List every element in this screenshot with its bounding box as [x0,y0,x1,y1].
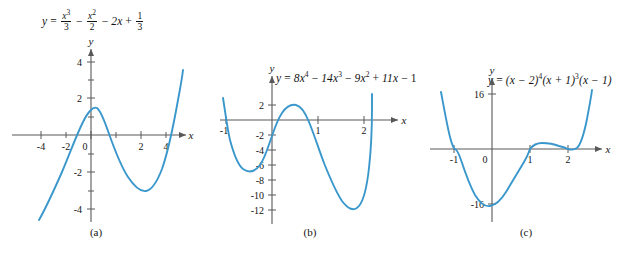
y-axis-label-b: y [269,62,275,74]
x-ticklabel-a-2: 0 [83,141,88,152]
curve-a [39,70,183,220]
y-ticklabel-b-4: -8 [256,175,264,186]
caption-b: (b) [290,226,330,238]
curve-c [441,90,592,206]
x-ticklabel-b-1: 1 [316,125,321,136]
caption-c: (c) [506,226,546,238]
y-ticklabel-b-6: -12 [251,205,264,216]
x-ticklabel-a-3: 2 [139,141,144,152]
x-ticklabel-a-0: -4 [37,141,45,152]
caption-a: (a) [76,226,116,238]
panel-c: y = (x − 2)4(x + 1)3(x − 1) -1 [412,0,628,256]
x-axis-label-c: x [605,143,611,155]
x-ticklabel-c-3: 2 [566,154,571,165]
y-axis-label-c: y [489,64,495,76]
curve-b [223,94,372,209]
y-ticklabel-c-0: 16 [474,89,484,100]
plot-b: -1 1 2 2 -2 -4 -6 -8 -10 -12 x y [206,0,416,256]
y-ticklabel-b-1: -2 [256,130,264,141]
x-ticklabel-c-1: 0 [483,154,488,165]
x-ticklabel-c-0: -1 [450,154,458,165]
y-ticklabel-b-5: -10 [251,190,264,201]
x-ticklabel-a-1: -2 [62,141,70,152]
figure-container: y = x3 3 − x2 2 − 2x + 1 3 [0,0,628,256]
plot-a: -4 -2 0 2 4 4 2 -2 -4 x y [0,0,210,256]
x-axis-label-a: x [188,129,194,141]
x-axis-arrow-a [179,132,186,138]
x-axis-arrow-b [391,117,398,123]
y-ticklabel-b-0: 2 [259,100,264,111]
y-ticklabel-a-1: 2 [77,93,82,104]
y-axis-arrow-a [88,49,94,56]
x-axis-label-b: x [401,114,407,126]
y-axis-arrow-b [269,76,275,83]
panel-a: y = x3 3 − x2 2 − 2x + 1 3 [0,0,210,256]
x-axis-arrow-c [595,146,602,152]
y-ticklabel-a-3: -4 [74,204,82,215]
plot-c: -1 0 1 2 16 -16 x y [412,0,628,256]
y-axis-arrow-c [489,78,495,85]
y-ticklabel-a-0: 4 [77,57,82,68]
panel-b: y = 8x4 − 14x3 − 9x2 + 11x − 1 [206,0,416,256]
y-ticklabel-b-2: -4 [256,145,264,156]
y-axis-label-a: y [88,35,94,47]
y-ticklabel-a-2: -2 [74,167,82,178]
x-ticklabel-b-2: 2 [362,125,367,136]
